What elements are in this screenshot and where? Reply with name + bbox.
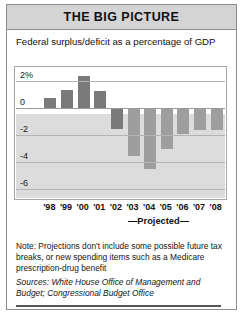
page-title: THE BIG PICTURE — [64, 10, 180, 24]
x-axis-labels: '98'99'00'01'02'03'04'05'06'07'08 — [14, 203, 231, 216]
y-axis-tick-neg6: -6 — [20, 179, 28, 188]
bar-02 — [111, 108, 123, 128]
bar-01 — [94, 91, 106, 109]
bar-04 — [144, 108, 156, 169]
x-axis-tick-08: '08 — [206, 203, 226, 212]
bar-05 — [161, 108, 173, 148]
projected-label: —Projected— — [14, 216, 227, 226]
gridline--6 — [16, 189, 225, 190]
bar-07 — [194, 108, 206, 130]
bar-03 — [128, 108, 140, 155]
chart-sources: Sources: White House Office of Managemen… — [16, 277, 226, 299]
bottom-divider — [16, 305, 221, 307]
figure-header: THE BIG PICTURE — [7, 5, 236, 29]
bar-series — [16, 68, 225, 198]
zero-line — [16, 108, 225, 109]
chart-figure: THE BIG PICTURE Federal surplus/deficit … — [0, 0, 243, 319]
y-axis-tick-neg2: -2 — [20, 125, 28, 134]
header-divider — [7, 29, 236, 30]
gridline--2 — [16, 135, 225, 136]
chart-note: Note: Projections don't include some pos… — [16, 241, 226, 274]
y-axis-tick-neg4: -4 — [20, 152, 28, 161]
gridline--4 — [16, 162, 225, 163]
y-axis-tick-2pct: 2% — [20, 71, 33, 80]
y-axis-tick-0: 0 — [20, 98, 25, 107]
bar-06 — [177, 108, 189, 134]
bar-08 — [211, 108, 223, 130]
plot-box — [14, 66, 227, 200]
chart-subtitle: Federal surplus/deficit as a percentage … — [16, 36, 231, 47]
gridline-2 — [16, 81, 225, 82]
bar-98 — [44, 98, 56, 109]
bar-99 — [61, 90, 73, 109]
chart-area: 2%0-2-4-6 — [14, 60, 231, 202]
